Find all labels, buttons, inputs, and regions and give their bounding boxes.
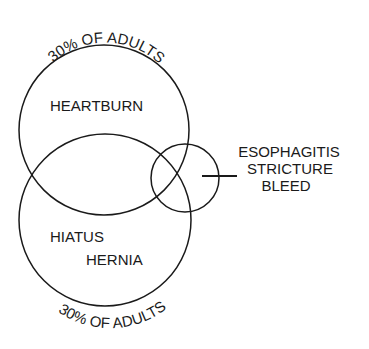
callout-bleed: BLEED	[261, 177, 310, 194]
venn-diagram: 30% OF ADULTS 30% OF ADULTS HEARTBURN HI…	[0, 0, 369, 349]
hiatus-label: HIATUS	[50, 228, 104, 245]
callout-stricture: STRICTURE	[247, 160, 333, 177]
heartburn-label: HEARTBURN	[50, 97, 143, 114]
heartburn-prevalence-annotation: 30% OF ADULTS	[44, 28, 168, 66]
hernia-label: HERNIA	[86, 251, 143, 268]
heartburn-circle	[19, 45, 189, 215]
hiatus-hernia-circle	[19, 134, 191, 306]
callout-esophagitis: ESOPHAGITIS	[238, 143, 340, 160]
hiatus-hernia-prevalence-annotation: 30% OF ADULTS	[56, 297, 169, 331]
